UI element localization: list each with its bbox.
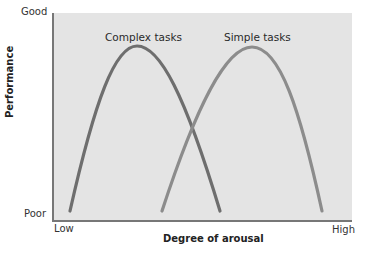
y-tick-poor: Poor [24,208,46,219]
x-axis-line [52,220,352,222]
simple-tasks-label: Simple tasks [224,31,291,43]
complex-tasks-curve [70,46,220,211]
y-axis-line [52,13,54,222]
x-tick-low: Low [54,223,74,234]
y-tick-good: Good [21,6,47,17]
x-tick-high: High [332,224,355,235]
simple-tasks-curve [162,47,322,211]
y-axis-label: Performance [4,46,15,118]
complex-tasks-label: Complex tasks [105,31,182,43]
curves [0,0,369,253]
x-axis-label: Degree of arousal [163,233,264,244]
